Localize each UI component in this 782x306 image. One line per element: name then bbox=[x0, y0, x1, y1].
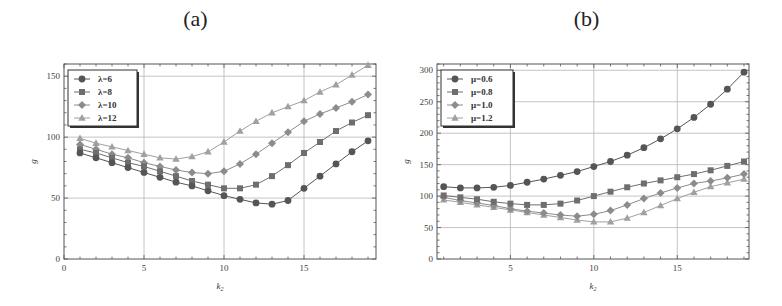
data-point-square bbox=[658, 177, 664, 183]
data-point-diamond bbox=[707, 177, 715, 185]
data-point-diamond bbox=[348, 98, 356, 106]
legend-label: λ=8 bbox=[98, 87, 113, 97]
data-point-circle bbox=[590, 163, 597, 170]
data-point-square bbox=[608, 189, 614, 195]
x-tick-label: 15 bbox=[300, 263, 310, 273]
data-point-circle bbox=[640, 144, 647, 151]
data-point-square bbox=[691, 171, 697, 177]
data-point-circle bbox=[657, 135, 664, 142]
y-tick-label: 150 bbox=[420, 160, 434, 170]
data-point-triangle bbox=[364, 61, 371, 68]
x-axis-label: k2 bbox=[217, 281, 224, 292]
data-point-square bbox=[301, 150, 307, 156]
data-point-triangle bbox=[204, 148, 211, 155]
data-point-circle bbox=[607, 158, 614, 165]
y-tick-label: 50 bbox=[51, 193, 61, 203]
x-tick-label: 10 bbox=[220, 263, 230, 273]
data-point-square bbox=[574, 198, 580, 204]
data-point-circle bbox=[741, 69, 748, 76]
data-point-circle bbox=[317, 173, 324, 180]
y-tick-label: 150 bbox=[47, 71, 61, 81]
data-point-triangle bbox=[236, 127, 243, 134]
legend: μ=0.6μ=0.8μ=1.0μ=1.2 bbox=[441, 70, 515, 128]
data-point-circle bbox=[109, 159, 116, 166]
data-point-square bbox=[708, 167, 714, 173]
data-point-square bbox=[285, 162, 291, 168]
data-point-circle bbox=[540, 176, 547, 183]
data-point-square bbox=[591, 193, 597, 199]
data-point-circle bbox=[253, 200, 260, 207]
data-point-circle bbox=[691, 114, 698, 121]
data-point-circle bbox=[457, 185, 464, 192]
data-point-circle bbox=[365, 137, 372, 144]
data-point-diamond bbox=[268, 139, 276, 147]
data-point-triangle bbox=[220, 138, 227, 145]
data-point-diamond bbox=[607, 207, 615, 215]
data-point-triangle bbox=[348, 71, 355, 78]
data-point-diamond bbox=[300, 117, 308, 125]
data-point-diamond bbox=[188, 168, 196, 176]
data-point-circle bbox=[301, 185, 308, 192]
data-point-square bbox=[641, 181, 647, 187]
data-point-circle bbox=[125, 164, 132, 171]
x-axis-label: k2 bbox=[590, 281, 597, 292]
legend-marker-circle-icon bbox=[79, 76, 86, 83]
data-point-square bbox=[141, 163, 147, 169]
legend-marker-circle-icon bbox=[452, 76, 459, 83]
data-point-diamond bbox=[236, 160, 244, 168]
x-tick-label: 5 bbox=[508, 263, 513, 273]
legend-label: μ=1.2 bbox=[471, 113, 493, 123]
legend-label: λ=6 bbox=[98, 74, 113, 84]
legend-label: λ=12 bbox=[98, 113, 117, 123]
y-tick-label: 0 bbox=[56, 254, 61, 264]
data-point-circle bbox=[237, 196, 244, 203]
data-point-circle bbox=[674, 125, 681, 132]
data-point-square bbox=[157, 168, 163, 174]
data-point-square bbox=[269, 173, 275, 179]
data-point-circle bbox=[157, 174, 164, 181]
data-point-diamond bbox=[673, 184, 681, 192]
data-point-circle bbox=[490, 184, 497, 191]
panel-b: (b) 51015050100150200250300k2gμ=0.6μ=0.8… bbox=[391, 0, 782, 306]
data-point-circle bbox=[707, 101, 714, 108]
data-point-circle bbox=[440, 183, 447, 190]
data-point-diamond bbox=[332, 104, 340, 112]
y-axis-label: g bbox=[401, 159, 411, 164]
data-point-circle bbox=[349, 148, 356, 155]
data-point-diamond bbox=[284, 128, 292, 136]
x-tick-label: 10 bbox=[589, 263, 599, 273]
data-point-diamond bbox=[220, 167, 228, 175]
y-tick-label: 0 bbox=[429, 254, 434, 264]
data-point-square bbox=[173, 173, 179, 179]
data-point-square bbox=[221, 185, 227, 191]
data-point-circle bbox=[574, 168, 581, 175]
y-tick-label: 200 bbox=[420, 128, 434, 138]
x-tick-label: 5 bbox=[142, 263, 147, 273]
y-tick-label: 100 bbox=[420, 191, 434, 201]
data-point-circle bbox=[285, 197, 292, 204]
data-point-triangle bbox=[76, 134, 83, 141]
data-point-circle bbox=[557, 172, 564, 179]
data-point-square bbox=[457, 194, 463, 200]
data-point-triangle bbox=[332, 81, 339, 88]
data-point-circle bbox=[507, 182, 514, 189]
data-point-square bbox=[541, 202, 547, 208]
data-point-diamond bbox=[252, 150, 260, 158]
data-point-circle bbox=[189, 182, 196, 189]
data-point-square bbox=[507, 201, 513, 207]
data-point-square bbox=[253, 182, 259, 188]
legend-marker-square-icon bbox=[79, 89, 85, 95]
x-tick-label: 0 bbox=[62, 263, 67, 273]
data-point-circle bbox=[77, 150, 84, 157]
data-point-circle bbox=[141, 169, 148, 176]
legend-marker-square-icon bbox=[452, 89, 458, 95]
data-point-diamond bbox=[590, 210, 598, 218]
data-point-square bbox=[441, 192, 447, 198]
y-tick-label: 300 bbox=[420, 65, 434, 75]
data-point-square bbox=[365, 112, 371, 118]
data-point-square bbox=[624, 184, 630, 190]
y-axis-label: g bbox=[28, 159, 38, 164]
data-point-square bbox=[349, 120, 355, 126]
data-point-diamond bbox=[364, 90, 372, 98]
data-point-diamond bbox=[723, 174, 731, 182]
